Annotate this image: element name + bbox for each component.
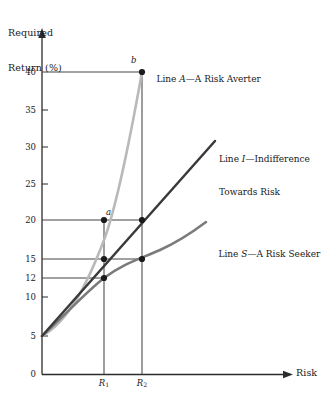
y-tick-label-20: 20 <box>14 215 36 225</box>
legend-line-i-row2: Towards Risk <box>219 187 310 198</box>
legend-line-a-prefix: Line <box>156 74 179 84</box>
legend-label-line-a: Line A—A Risk Averter <box>145 63 261 96</box>
legend-line-a-suffix: —A Risk Averter <box>186 74 261 84</box>
data-point-s-R1 <box>101 275 107 281</box>
data-point-label-b: b <box>131 55 136 65</box>
legend-line-i-row1: Line I—Indifference <box>219 154 310 165</box>
series-line-i <box>42 141 215 336</box>
chart-container: Required Return (%) Risk 40 35 30 25 20 … <box>0 0 333 397</box>
legend-label-line-s: Line S—A Risk Seeker <box>207 238 320 271</box>
y-tick-label-12: 12 <box>14 273 36 283</box>
reference-lines-horizontal <box>42 72 142 278</box>
y-tick-label-5: 5 <box>14 331 36 341</box>
legend-line-i-prefix: Line <box>219 154 242 164</box>
x-tick-label-R2-sub: 2 <box>143 381 147 388</box>
legend-line-i-suffix: —Indifference <box>245 154 310 164</box>
y-tick-label-0: 0 <box>14 369 36 379</box>
data-point-a <box>101 217 107 223</box>
legend-line-s-suffix: —A Risk Seeker <box>247 249 320 259</box>
data-point-i-R2 <box>139 217 145 223</box>
x-tick-label-R1-sub: 1 <box>105 381 109 388</box>
y-tick-label-25: 25 <box>14 179 36 189</box>
x-axis-title: Risk <box>296 367 317 379</box>
x-axis-arrowhead <box>283 371 293 379</box>
y-tick-label-30: 30 <box>14 142 36 152</box>
y-tick-label-10: 10 <box>14 292 36 302</box>
y-axis-title: Required Return (%) <box>8 4 62 96</box>
y-tick-label-15: 15 <box>14 254 36 264</box>
data-point-i-R1 <box>101 256 107 262</box>
series-line-s <box>42 222 206 336</box>
x-tick-label-R2: R2 <box>129 378 155 388</box>
y-tick-label-35: 35 <box>14 105 36 115</box>
x-tick-label-R1: R1 <box>91 378 117 388</box>
y-axis-title-line1: Required <box>8 27 62 39</box>
legend-line-s-prefix: Line <box>218 249 241 259</box>
series-line-a <box>42 72 142 336</box>
data-point-label-a: a <box>106 207 111 217</box>
legend-label-line-i: Line I—Indifference Towards Risk <box>219 132 310 220</box>
data-point-s-R2 <box>139 256 145 262</box>
y-tick-marks <box>42 110 48 336</box>
y-tick-label-40: 40 <box>14 67 36 77</box>
